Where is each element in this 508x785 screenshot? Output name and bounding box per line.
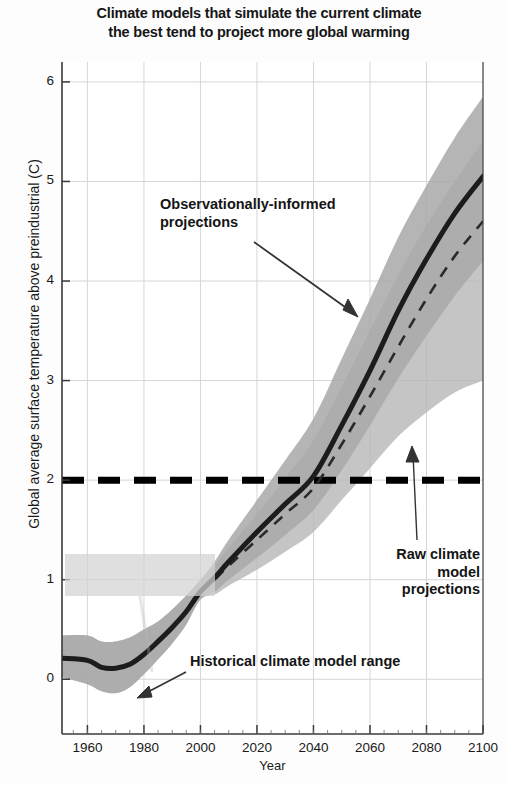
y-tick-label: 4: [28, 272, 54, 287]
x-tick-label: 2040: [285, 740, 341, 755]
annotation-raw-climate-model: Raw climate model projections: [330, 546, 480, 599]
annotation-obs-line-2: projections: [160, 214, 375, 232]
annotation-observationally-informed: Observationally-informed projections: [160, 196, 375, 231]
y-tick-label: 5: [28, 172, 54, 187]
x-tick-label: 1980: [116, 740, 172, 755]
blanked-label-box: [65, 554, 215, 596]
annotation-raw-line-3: projections: [330, 581, 480, 599]
y-tick-label: 1: [28, 571, 54, 586]
y-tick-label: 6: [28, 73, 54, 88]
x-tick-label: 1960: [59, 740, 115, 755]
y-tick-label: 3: [28, 372, 54, 387]
x-tick-label: 2060: [342, 740, 398, 755]
annotation-historical-range: Historical climate model range: [190, 653, 480, 671]
y-tick-label: 0: [28, 670, 54, 685]
x-tick-label: 2080: [398, 740, 454, 755]
y-tick-label: 2: [28, 471, 54, 486]
annotation-obs-line-1: Observationally-informed: [160, 196, 375, 214]
x-tick-label: 2020: [229, 740, 285, 755]
x-tick-label: 2100: [455, 740, 508, 755]
annotation-raw-line-2: model: [330, 564, 480, 582]
annotation-raw-line-1: Raw climate: [330, 546, 480, 564]
x-tick-label: 2000: [172, 740, 228, 755]
chart-figure: Climate models that simulate the current…: [0, 0, 508, 785]
